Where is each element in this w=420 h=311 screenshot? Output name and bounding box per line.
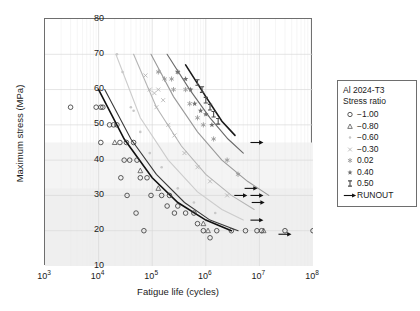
dot-light-icon bbox=[343, 132, 357, 143]
legend-item-0.80[interactable]: −0.80 bbox=[343, 121, 412, 133]
legend-item-label: 0.02 bbox=[357, 155, 374, 166]
legend-item-label: RUNOUT bbox=[357, 190, 393, 201]
x-light-icon bbox=[343, 144, 357, 155]
x-tick-label: 105 bbox=[131, 268, 171, 281]
legend-item-0.02[interactable]: 0.02 bbox=[343, 155, 412, 167]
legend-title-line1: Al 2024-T3 bbox=[343, 85, 412, 96]
legend-item-label: 0.50 bbox=[357, 178, 374, 189]
y-tick-label: 30 bbox=[64, 190, 104, 199]
y-axis-title: Maximum stress (MPa) bbox=[14, 54, 25, 214]
circle-open-icon bbox=[343, 109, 357, 120]
triangle-open-icon bbox=[343, 121, 357, 132]
chart-root: 8070605040302010 103104105106107108 Fati… bbox=[0, 0, 420, 311]
x-axis-title: Fatigue life (cycles) bbox=[44, 286, 312, 297]
y-tick-label: 20 bbox=[64, 225, 104, 234]
x-tick-label: 108 bbox=[292, 268, 332, 281]
legend-item-label: 0.40 bbox=[357, 167, 374, 178]
y-tick-label: 50 bbox=[64, 119, 104, 128]
legend-entries: −1.00−0.80−0.60−0.300.020.400.50RUNOUT bbox=[343, 109, 412, 201]
legend-item-RUNOUT[interactable]: RUNOUT bbox=[343, 190, 412, 202]
y-tick-label: 80 bbox=[64, 14, 104, 23]
legend-item-label: −0.60 bbox=[357, 132, 379, 143]
dumbbell-icon bbox=[343, 178, 357, 189]
arrow-icon bbox=[343, 190, 357, 201]
legend-title-line2: Stress ratio bbox=[343, 96, 412, 107]
x-tick-label: 107 bbox=[238, 268, 278, 281]
star-icon bbox=[343, 167, 357, 178]
y-tick-label: 70 bbox=[64, 49, 104, 58]
legend-item-label: −0.30 bbox=[357, 144, 379, 155]
legend-item-0.50[interactable]: 0.50 bbox=[343, 178, 412, 190]
x-tick-label: 106 bbox=[185, 268, 225, 281]
y-tick-label: 60 bbox=[64, 84, 104, 93]
legend-item-label: −1.00 bbox=[357, 109, 379, 120]
legend-item-0.30[interactable]: −0.30 bbox=[343, 144, 412, 156]
asterisk-icon bbox=[343, 155, 357, 166]
x-tick-label: 104 bbox=[78, 268, 118, 281]
legend-item-0.40[interactable]: 0.40 bbox=[343, 167, 412, 179]
y-tick-label: 40 bbox=[64, 155, 104, 164]
legend-item-0.60[interactable]: −0.60 bbox=[343, 132, 412, 144]
series-0.40 bbox=[175, 69, 215, 127]
legend-item-1.00[interactable]: −1.00 bbox=[343, 109, 412, 121]
legend-item-label: −0.80 bbox=[357, 121, 379, 132]
x-tick-label: 103 bbox=[24, 268, 64, 281]
legend-title: Al 2024-T3 Stress ratio bbox=[343, 85, 412, 106]
legend: Al 2024-T3 Stress ratio −1.00−0.80−0.60−… bbox=[337, 80, 417, 207]
